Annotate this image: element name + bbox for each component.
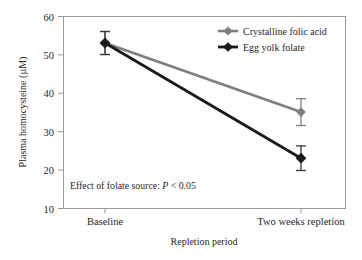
- y-axis-ticks: [58, 17, 64, 209]
- y-tick-label-60: 60: [44, 12, 55, 23]
- annotation-text-italic: P: [161, 180, 168, 191]
- annotation-text-before: Effect of folate source:: [70, 180, 162, 191]
- annotation-text-after: < 0.05: [168, 180, 196, 191]
- y-tick-label-10: 10: [44, 204, 55, 215]
- significance-annotation: Effect of folate source: P < 0.05: [70, 180, 196, 191]
- y-tick-label-30: 30: [44, 127, 55, 138]
- line-chart-svg: 60 50 40 30 20 10 Baseline Two weeks rep…: [0, 0, 362, 260]
- legend-label-egg-yolk-folate: Egg yolk folate: [243, 42, 305, 53]
- legend-label-crystalline-folic-acid: Crystalline folic acid: [243, 26, 327, 37]
- x-axis-title: Repletion period: [171, 236, 238, 247]
- chart-figure: 60 50 40 30 20 10 Baseline Two weeks rep…: [0, 0, 362, 260]
- y-tick-label-50: 50: [44, 50, 55, 61]
- y-axis-title: Plasma homocysteine (µM): [17, 57, 29, 168]
- x-tick-label-two-weeks-repletion: Two weeks repletion: [257, 216, 345, 227]
- y-tick-label-40: 40: [44, 88, 55, 99]
- x-tick-label-baseline: Baseline: [87, 216, 123, 227]
- x-axis-ticks: [105, 209, 301, 214]
- y-tick-label-20: 20: [44, 165, 55, 176]
